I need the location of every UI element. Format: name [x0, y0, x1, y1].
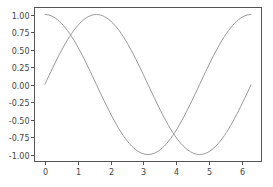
x-tick-label: 2 [109, 168, 114, 177]
line-chart: 0123456 1.000.750.500.250.00-0.25-0.50-0… [0, 0, 273, 187]
x-tick-label: 4 [174, 168, 179, 177]
series-layer [45, 15, 251, 155]
y-tick-label: -0.75 [9, 134, 30, 143]
series-line-sin [45, 15, 251, 155]
y-tick-label: -0.25 [9, 99, 30, 108]
y-tick-label: -1.00 [9, 152, 30, 161]
y-tick-label: 0.50 [12, 47, 30, 56]
x-tick-label: 5 [207, 168, 212, 177]
x-tick-label: 0 [43, 168, 48, 177]
y-axis: 1.000.750.500.250.00-0.25-0.50-0.75-1.00 [9, 12, 35, 161]
x-tick-label: 1 [76, 168, 81, 177]
y-tick-label: 0.75 [12, 29, 30, 38]
x-axis: 0123456 [43, 162, 245, 177]
y-tick-label: 0.00 [12, 82, 30, 91]
x-tick-label: 6 [240, 168, 245, 177]
y-tick-label: -0.50 [9, 117, 30, 126]
y-tick-label: 1.00 [12, 12, 30, 21]
y-tick-label: 0.25 [12, 64, 30, 73]
x-tick-label: 3 [141, 168, 146, 177]
